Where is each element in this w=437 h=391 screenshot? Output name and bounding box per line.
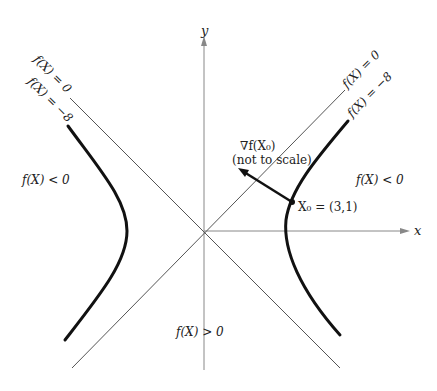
gradient-label: ∇f(X₀) — [240, 139, 276, 153]
y-axis-label: y — [200, 23, 209, 38]
region-left-label: f(X) < 0 — [21, 173, 70, 187]
region-right-label: f(X) < 0 — [355, 173, 404, 187]
point-x0 — [289, 199, 295, 205]
hyperbola-diagram: y x f(X) = 0 f(X) = −8 f(X) = 0 f(X) = −… — [0, 0, 437, 391]
x-axis-arrow-icon — [400, 228, 410, 234]
left-branch — [65, 126, 127, 340]
x-axis-label: x — [414, 223, 422, 238]
region-bottom-label: f(X) > 0 — [175, 325, 224, 339]
point-label: X₀ = (3,1) — [298, 200, 357, 214]
gradient-arrowhead-icon — [238, 168, 249, 177]
gradient-vector — [238, 168, 295, 205]
gradient-note: (not to scale) — [232, 153, 312, 167]
gradient-arrow — [244, 172, 292, 202]
